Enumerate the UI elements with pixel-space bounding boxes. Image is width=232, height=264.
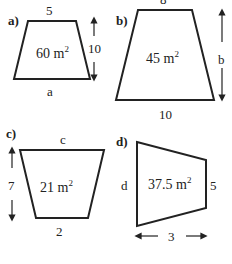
part-label-b: b): [116, 13, 128, 28]
area-label-a: 60 m2: [36, 44, 69, 61]
figure-c: c) c 21 m2 7 2: [6, 126, 104, 239]
left-side-label-d: d: [121, 178, 128, 193]
top-side-label-c: c: [60, 132, 66, 147]
height-label-a: 10: [88, 41, 101, 56]
area-label-d: 37.5 m2: [148, 175, 191, 192]
trapezium-diagram: a) 5 60 m2 10 a b) 8 45 m2 b 10 c) c 21 …: [0, 0, 232, 264]
figure-d: d) d 37.5 m2 5 3: [116, 134, 217, 244]
bottom-side-label-c: 2: [56, 224, 63, 239]
part-label-a: a): [8, 13, 19, 28]
figure-b: b) 8 45 m2 b 10: [116, 0, 225, 122]
bottom-side-label-b: 10: [159, 107, 172, 122]
area-label-c: 21 m2: [40, 178, 73, 195]
part-label-d: d): [116, 134, 128, 149]
top-side-label-b: 8: [160, 0, 167, 7]
height-label-c: 7: [8, 178, 15, 193]
top-side-label-a: 5: [46, 3, 53, 18]
right-side-label-d: 5: [210, 178, 217, 193]
figure-a: a) 5 60 m2 10 a: [8, 3, 101, 99]
part-label-c: c): [6, 126, 16, 141]
bottom-side-label-a: a: [47, 84, 53, 99]
height-label-b: b: [218, 52, 225, 67]
area-label-b: 45 m2: [146, 49, 179, 66]
width-label-d: 3: [168, 229, 175, 244]
